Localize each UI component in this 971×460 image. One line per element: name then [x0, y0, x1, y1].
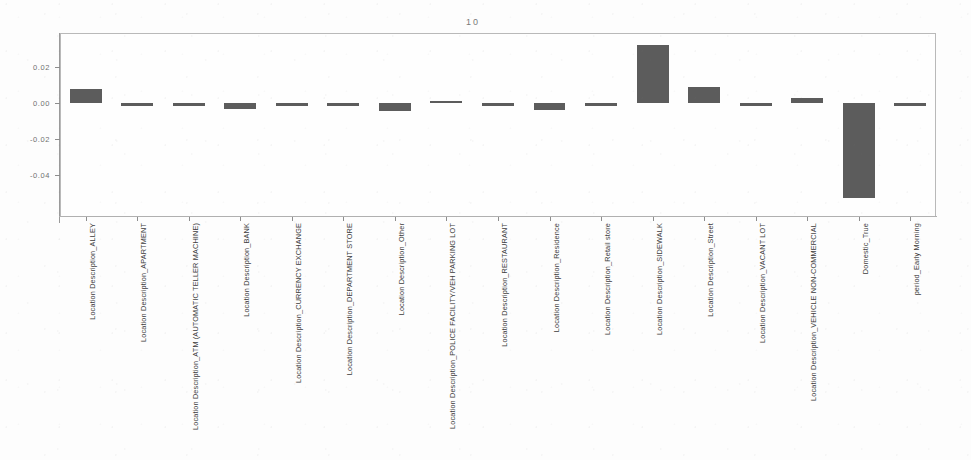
- x-tick-mark: [807, 217, 808, 221]
- y-tick-label: -0.02: [30, 134, 50, 143]
- x-tick-mark: [910, 217, 911, 221]
- y-axis-spine: [59, 33, 60, 223]
- x-tick-mark: [756, 217, 757, 221]
- x-tick-label: Location Description_ATM (AUTOMATIC TELL…: [192, 223, 199, 430]
- y-tick-label: 0.00: [33, 99, 50, 108]
- x-tick-mark: [653, 217, 654, 221]
- x-tick-mark: [137, 217, 138, 221]
- bar: [534, 103, 566, 110]
- y-tick-mark: [55, 103, 60, 104]
- x-tick-mark: [240, 217, 241, 221]
- chart-title: 10: [466, 17, 480, 27]
- bar: [791, 98, 823, 103]
- x-tick-mark: [446, 217, 447, 221]
- x-tick-label: Domestic_True: [862, 223, 869, 274]
- x-tick-label: Location Description_APARTMENT: [140, 223, 147, 342]
- x-tick-label: period_Early Morning: [913, 223, 920, 295]
- y-tick-mark: [55, 67, 60, 68]
- x-tick-label: Location Description_CURRENCY EXCHANGE: [295, 223, 302, 383]
- bar: [843, 103, 875, 198]
- bar: [637, 45, 669, 103]
- x-tick-label: Location Description_VACANT LOT: [759, 223, 766, 343]
- bar: [276, 103, 308, 106]
- bar: [70, 89, 102, 103]
- bar: [379, 103, 411, 111]
- bar: [173, 103, 205, 106]
- y-tick-mark: [55, 175, 60, 176]
- x-tick-mark: [859, 217, 860, 221]
- x-tick-label: Location Description_BANK: [243, 223, 250, 317]
- bar: [894, 103, 926, 106]
- x-tick-mark: [292, 217, 293, 221]
- bar: [585, 103, 617, 106]
- x-tick-mark: [343, 217, 344, 221]
- y-tick-label: 0.02: [33, 63, 50, 72]
- x-tick-label: Location Description_RESTAURANT: [501, 223, 508, 347]
- bar: [327, 103, 359, 106]
- x-tick-label: Location Description_SIDEWALK: [656, 223, 663, 335]
- x-tick-label: Location Description_DEPARTMENT STORE: [346, 223, 353, 375]
- x-tick-mark: [395, 217, 396, 221]
- x-tick-label: Location Description_Residence: [553, 223, 560, 332]
- bar-chart-figure: 10 0.020.00-0.02-0.04 Location Descripti…: [0, 0, 971, 460]
- x-tick-label: Location Description_VEHICLE NON-COMMERC…: [810, 223, 817, 401]
- bar: [482, 103, 514, 106]
- bar: [430, 101, 462, 104]
- x-tick-mark: [704, 217, 705, 221]
- x-tick-label: Location Description_POLICE FACILITY/VEH…: [449, 223, 456, 429]
- x-tick-mark: [86, 217, 87, 221]
- plot-area: [60, 33, 936, 217]
- bar: [688, 87, 720, 103]
- x-tick-mark: [601, 217, 602, 221]
- y-tick-mark: [55, 139, 60, 140]
- y-tick-label: -0.04: [30, 170, 50, 179]
- x-tick-label: Location Description_Other: [398, 223, 405, 315]
- x-tick-mark: [498, 217, 499, 221]
- bar: [121, 103, 153, 106]
- bar: [224, 103, 256, 109]
- x-tick-label: Location Description_ALLEY: [89, 223, 96, 320]
- x-tick-label: Location Description_Street: [707, 223, 714, 317]
- x-tick-mark: [550, 217, 551, 221]
- x-tick-mark: [189, 217, 190, 221]
- x-tick-label: Location Description_Retail store: [604, 223, 611, 335]
- bar: [740, 103, 772, 106]
